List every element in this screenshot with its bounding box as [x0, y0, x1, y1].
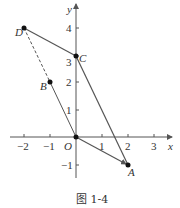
point-C: [74, 54, 79, 59]
x-tick-3: 3: [151, 140, 157, 152]
x-tick-neg1: −1: [43, 140, 55, 152]
x-tick-neg2: −2: [17, 140, 29, 152]
y-tick-3: 3: [66, 56, 72, 68]
label-D: D: [14, 26, 23, 38]
point-O: [74, 135, 79, 140]
x-tick-2: 2: [125, 140, 131, 152]
label-A: A: [127, 166, 135, 178]
segment-DB-dashed: [24, 28, 50, 82]
label-B: B: [40, 80, 47, 92]
y-tick-2: 2: [66, 76, 72, 88]
point-B: [48, 80, 53, 85]
y-tick-4: 4: [66, 22, 72, 34]
y-tick-neg1: −1: [61, 159, 73, 171]
y-axis-label: y: [66, 3, 72, 15]
y-tick-1: 1: [66, 104, 72, 116]
label-O: O: [64, 140, 72, 152]
x-axis: −2 −1 1 2 3 x: [10, 134, 173, 152]
segment-BO: [50, 82, 76, 137]
label-C: C: [79, 52, 87, 64]
x-axis-label: x: [167, 140, 173, 152]
coordinate-diagram: −2 −1 1 2 3 x 4 3 2 1 −1 y D C B A O 图 1…: [0, 0, 180, 208]
figure-caption: 图 1-4: [76, 193, 108, 206]
